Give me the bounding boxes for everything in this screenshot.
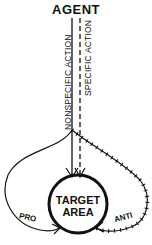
target-line-2: AREA [54,206,102,218]
target-line-1: TARGET [54,194,102,206]
nonspecific-action-label: NONSPECIFIC ACTION [63,34,73,130]
specific-action-label: SPECIFIC ACTION [83,20,93,96]
agent-label: AGENT [52,2,100,17]
target-area-label: TARGET AREA [54,194,102,218]
